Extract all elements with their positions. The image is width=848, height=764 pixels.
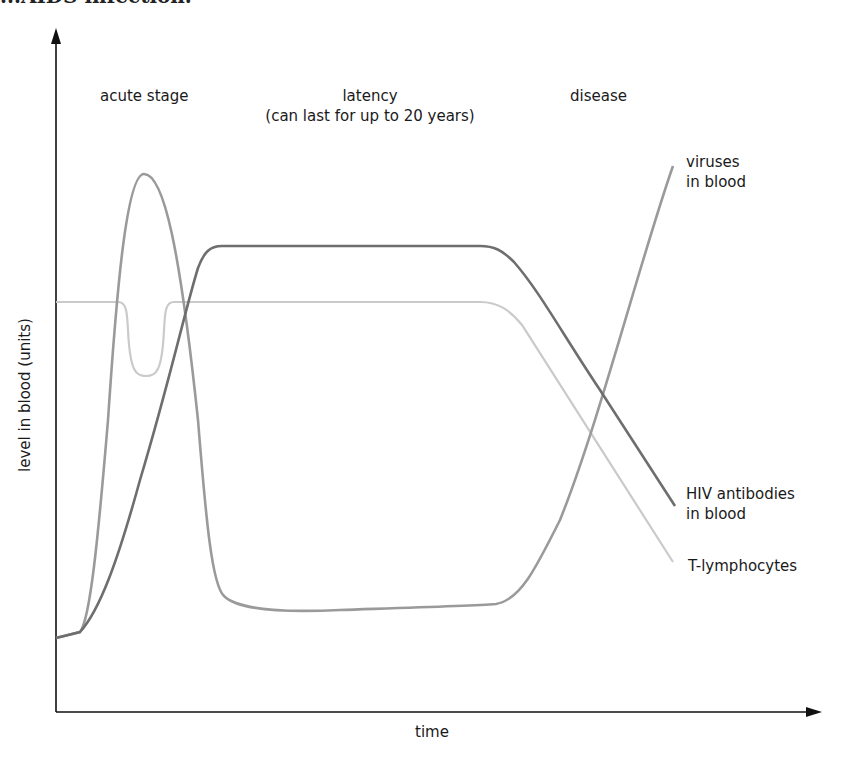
stage-label-acute: acute stage bbox=[100, 86, 188, 106]
axes bbox=[51, 28, 822, 717]
series-label-antibodies-line2: in blood bbox=[686, 504, 746, 524]
stage-label-latency-note: (can last for up to 20 years) bbox=[230, 106, 510, 126]
y-axis-label: level in blood (units) bbox=[16, 318, 34, 472]
series-label-tlymphocytes: T-lymphocytes bbox=[688, 556, 797, 576]
viruses-curve bbox=[56, 166, 673, 638]
series-label-viruses-line2: in blood bbox=[686, 172, 746, 192]
x-axis-label: time bbox=[415, 722, 449, 742]
y-axis-arrow-icon bbox=[51, 28, 61, 44]
stage-label-disease: disease bbox=[570, 86, 627, 106]
antibodies-curve bbox=[56, 246, 675, 638]
series-label-antibodies-line1: HIV antibodies bbox=[686, 484, 795, 504]
x-axis-arrow-icon bbox=[806, 707, 822, 717]
tlymphocytes-curve bbox=[56, 302, 673, 562]
stage-label-latency: latency bbox=[230, 86, 510, 106]
series-label-viruses-line1: viruses bbox=[686, 152, 740, 172]
